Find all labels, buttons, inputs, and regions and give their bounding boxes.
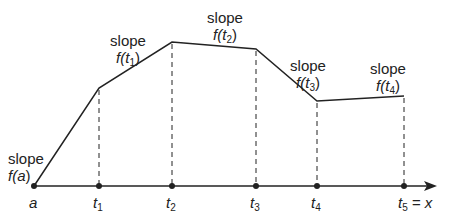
slope-label-a: slope f(a) — [8, 150, 58, 184]
piecewise-curve — [34, 42, 404, 186]
tick-label-t3: t3 — [250, 194, 260, 213]
tick-label-t1: t1 — [93, 194, 103, 213]
tick-label-a: a — [29, 194, 37, 211]
slope-label-t2: slope f(t2) — [200, 9, 250, 48]
tick-label-t2: t2 — [166, 194, 176, 213]
slope-label-t1: slope f(t1) — [103, 32, 153, 71]
tick-label-t4: t4 — [311, 194, 321, 213]
tick-label-t5: t5 = x — [398, 194, 432, 213]
slope-label-t4: slope f(t4) — [363, 60, 413, 99]
slope-label-t3: slope f(t3) — [283, 57, 333, 96]
